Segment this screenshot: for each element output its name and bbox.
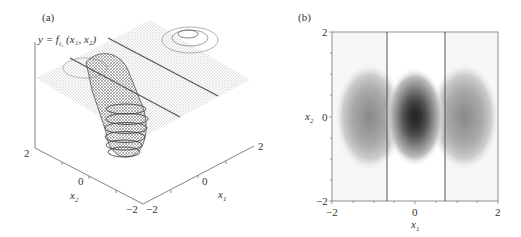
- contour-fill: [330, 32, 504, 201]
- x1-axis-label: x1: [218, 189, 226, 205]
- x-tick: 0: [412, 207, 418, 218]
- x1-tick: 0: [202, 176, 208, 187]
- x-tick: −2: [326, 207, 338, 218]
- x2-tick: 2: [24, 148, 30, 159]
- panel-b-label: (b): [298, 12, 311, 23]
- x2-tick: 0: [78, 176, 84, 187]
- x-axis-label: x1: [411, 219, 419, 235]
- x1-tick: −2: [146, 204, 158, 215]
- z-axis-label: y = fi₁ (x₁, x₂): [38, 34, 96, 50]
- x2-axis-label: x2: [70, 190, 78, 206]
- x1-tick: 2: [258, 141, 264, 152]
- y-tick: 2: [322, 27, 328, 38]
- y-axis-label: x2: [305, 111, 313, 127]
- panel-a-label: (a): [42, 12, 54, 23]
- x-tick: 2: [495, 207, 501, 218]
- y-tick: 0: [322, 112, 328, 123]
- x2-tick: −2: [126, 204, 138, 215]
- x1-axis: [143, 146, 254, 204]
